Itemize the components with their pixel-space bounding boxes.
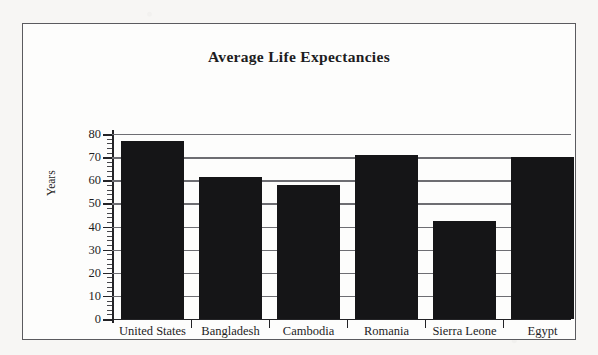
bar bbox=[121, 141, 184, 319]
y-tick-minor bbox=[107, 277, 112, 278]
y-axis-title: Years bbox=[45, 170, 57, 196]
x-tick-label: Cambodia bbox=[270, 324, 347, 339]
y-tick-label: 70 bbox=[75, 150, 101, 165]
y-tick-minor bbox=[107, 213, 112, 214]
y-tick-label: 80 bbox=[75, 127, 101, 142]
y-tick-minor bbox=[107, 310, 112, 311]
y-tick-major bbox=[103, 157, 112, 159]
y-tick-minor bbox=[107, 305, 112, 306]
y-tick-minor bbox=[107, 231, 112, 232]
y-tick-minor bbox=[107, 287, 112, 288]
y-tick-label: 10 bbox=[75, 288, 101, 303]
y-tick-minor bbox=[107, 171, 112, 172]
y-tick-minor bbox=[107, 245, 112, 246]
x-tick-label: Egypt bbox=[504, 324, 581, 339]
plot-area bbox=[112, 134, 571, 319]
y-tick-minor bbox=[107, 162, 112, 163]
gridline bbox=[112, 134, 571, 135]
y-tick-label: 50 bbox=[75, 196, 101, 211]
y-tick-label: 60 bbox=[75, 173, 101, 188]
y-tick-minor bbox=[107, 314, 112, 315]
y-tick-major bbox=[103, 227, 112, 229]
y-axis-tick-labels: 01020304050607080 bbox=[75, 134, 101, 319]
y-tick-minor bbox=[107, 208, 112, 209]
y-tick-minor bbox=[107, 282, 112, 283]
y-tick-minor bbox=[107, 166, 112, 167]
y-tick-minor bbox=[107, 268, 112, 269]
x-tick-label: United States bbox=[114, 324, 191, 339]
y-tick-major bbox=[103, 203, 112, 205]
y-tick-minor bbox=[107, 148, 112, 149]
bar bbox=[511, 157, 574, 319]
y-tick-minor bbox=[107, 291, 112, 292]
y-tick-major bbox=[103, 134, 112, 136]
y-tick-label: 30 bbox=[75, 242, 101, 257]
y-tick-minor bbox=[107, 185, 112, 186]
chart-title: Average Life Expectancies bbox=[23, 48, 575, 66]
y-tick-minor bbox=[107, 222, 112, 223]
bar bbox=[277, 185, 340, 319]
x-tick-label: Sierra Leone bbox=[426, 324, 503, 339]
y-tick-minor bbox=[107, 259, 112, 260]
y-tick-minor bbox=[107, 176, 112, 177]
bar bbox=[199, 177, 262, 319]
y-tick-major bbox=[103, 180, 112, 182]
y-tick-minor bbox=[107, 194, 112, 195]
y-tick-major bbox=[103, 319, 112, 321]
y-tick-minor bbox=[107, 217, 112, 218]
y-tick-minor bbox=[107, 264, 112, 265]
y-tick-minor bbox=[107, 240, 112, 241]
y-tick-label: 0 bbox=[75, 312, 101, 327]
y-tick-minor bbox=[107, 254, 112, 255]
chart-frame: Average Life Expectancies Years 01020304… bbox=[22, 23, 576, 340]
y-tick-minor bbox=[107, 199, 112, 200]
bar bbox=[433, 221, 496, 319]
y-tick-major bbox=[103, 273, 112, 275]
bar bbox=[355, 155, 418, 319]
y-tick-label: 20 bbox=[75, 265, 101, 280]
y-tick-major bbox=[103, 296, 112, 298]
y-tick-minor bbox=[107, 190, 112, 191]
y-tick-minor bbox=[107, 236, 112, 237]
y-tick-major bbox=[103, 250, 112, 252]
y-tick-minor bbox=[107, 143, 112, 144]
chart-page: Average Life Expectancies Years 01020304… bbox=[0, 0, 598, 355]
x-tick-label: Bangladesh bbox=[192, 324, 269, 339]
y-tick-label: 40 bbox=[75, 219, 101, 234]
y-tick-minor bbox=[107, 139, 112, 140]
y-tick-minor bbox=[107, 153, 112, 154]
y-tick-minor bbox=[107, 301, 112, 302]
x-tick-label: Romania bbox=[348, 324, 425, 339]
